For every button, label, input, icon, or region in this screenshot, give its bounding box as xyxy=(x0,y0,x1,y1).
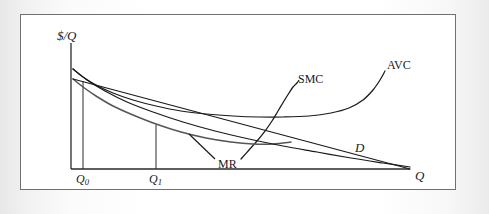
y-axis-label: $/Q xyxy=(57,29,77,42)
leader-lines-group xyxy=(189,80,299,159)
tick-base: Q xyxy=(149,172,158,186)
tick-subscript: 0 xyxy=(85,177,89,187)
x-tick-label-q0: Q0 xyxy=(76,173,89,187)
demand-curve-label: D xyxy=(355,141,364,154)
tick-base: Q xyxy=(76,172,85,186)
x-axis-label: Q xyxy=(415,169,424,182)
figure-page: $/Q AVC SMC MR D Q Q0 Q1 xyxy=(0,0,489,214)
economics-plot xyxy=(21,15,455,189)
avc-curve-label: AVC xyxy=(387,59,411,71)
curve-d xyxy=(73,79,410,169)
tick-subscript: 1 xyxy=(158,177,162,187)
x-tick-label-q1: Q1 xyxy=(149,173,162,187)
smc-curve-label: SMC xyxy=(298,73,323,85)
mr-curve-label: MR xyxy=(218,158,237,170)
figure-frame: $/Q AVC SMC MR D Q Q0 Q1 xyxy=(20,14,456,190)
